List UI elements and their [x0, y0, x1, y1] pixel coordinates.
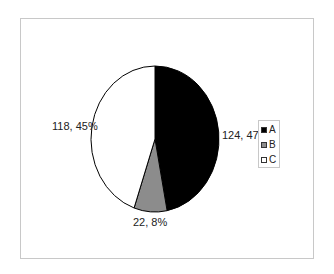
legend-item-b: B [261, 139, 276, 150]
data-label-b: 22, 8% [133, 216, 167, 228]
legend-item-c: C [261, 154, 276, 165]
legend-swatch-a [261, 127, 267, 133]
legend-swatch-b [261, 142, 267, 148]
pie-chart [0, 0, 334, 274]
pie-slice-a [155, 66, 219, 211]
legend: A B C [258, 120, 280, 168]
data-label-c: 118, 45% [52, 120, 98, 132]
legend-label-b: B [269, 139, 276, 150]
legend-label-c: C [269, 154, 276, 165]
legend-swatch-c [261, 157, 267, 163]
legend-label-a: A [269, 124, 276, 135]
legend-item-a: A [261, 124, 276, 135]
